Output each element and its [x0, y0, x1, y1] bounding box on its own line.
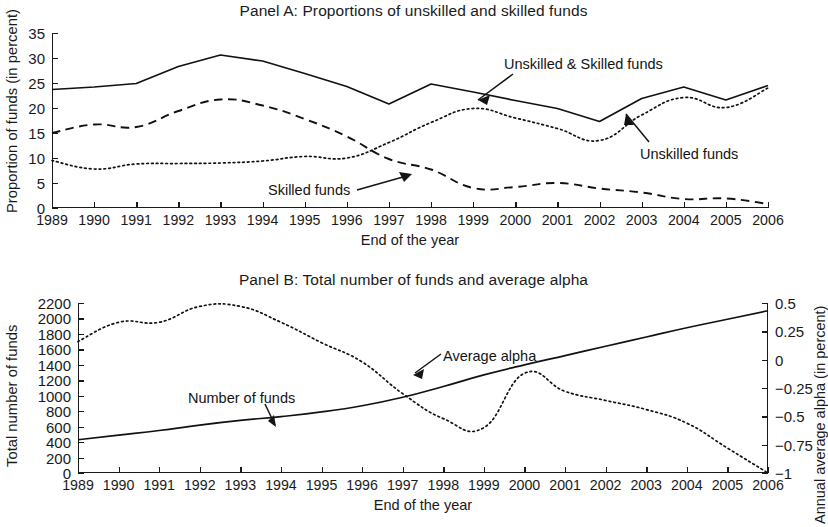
y-tick-label: 1000	[38, 387, 71, 404]
x-tick-label: 1997	[387, 477, 419, 493]
y-tick-label: 0.25	[775, 323, 804, 340]
panel-a-title: Panel A: Proportions of unskilled and sk…	[0, 2, 827, 20]
tick-mark	[762, 473, 768, 474]
tick-mark	[52, 208, 58, 209]
panel-b-x-axis-title: End of the year	[78, 497, 768, 513]
x-tick-label: 1995	[306, 477, 338, 493]
panel-a: Panel A: Proportions of unskilled and sk…	[0, 0, 827, 262]
x-tick-label: 1996	[346, 477, 378, 493]
y-tick-label: 0	[775, 351, 783, 368]
y-tick-label: −0.5	[775, 408, 805, 425]
x-tick-label: 1990	[78, 212, 110, 228]
annotation-unskilled-funds: Unskilled funds	[640, 146, 738, 162]
panel-b-y-axis-title-left: Total number of funds	[4, 325, 20, 467]
y-tick-label: 30	[28, 50, 45, 67]
panel-b-series-layer	[78, 303, 768, 473]
x-tick-label: 2001	[542, 212, 574, 228]
x-tick-label: 1997	[373, 212, 405, 228]
y-tick-label: 0.5	[775, 295, 796, 312]
x-tick-label: 2005	[710, 212, 742, 228]
y-tick-label: 1200	[38, 372, 71, 389]
x-tick-label: 1994	[247, 212, 279, 228]
panel-b-title: Panel B: Total number of funds and avera…	[0, 271, 827, 289]
y-tick-label: 1800	[38, 325, 71, 342]
annotation-number-of-funds: Number of funds	[188, 390, 295, 406]
y-tick-label: −0.75	[775, 436, 813, 453]
x-tick-label: 2004	[668, 212, 700, 228]
tick-mark	[768, 202, 769, 208]
y-tick-label: −0.25	[775, 380, 813, 397]
y-tick-label: 10	[28, 150, 45, 167]
annotation-average-alpha: Average alpha	[443, 348, 536, 364]
tick-mark	[768, 467, 769, 473]
x-tick-label: 1992	[163, 212, 195, 228]
x-tick-label: 1990	[103, 477, 135, 493]
panel-b-y-axis-title-right: Annual average alpha (in percent)	[812, 306, 828, 524]
y-tick-label: 1600	[38, 341, 71, 358]
y-tick-label: 2000	[38, 310, 71, 327]
x-tick-label: 2002	[590, 477, 622, 493]
panel-a-x-axis-title: End of the year	[52, 232, 768, 248]
x-tick-label: 1991	[120, 212, 152, 228]
y-tick-label: 800	[46, 403, 71, 420]
x-tick-label: 2006	[752, 477, 784, 493]
x-tick-label: 1994	[265, 477, 297, 493]
y-tick-label: 20	[28, 100, 45, 117]
x-tick-label: 2000	[500, 212, 532, 228]
x-tick-label: 1995	[289, 212, 321, 228]
tick-mark	[78, 473, 84, 474]
x-tick-label: 1998	[428, 477, 460, 493]
annotation-combined-funds: Unskilled & Skilled funds	[504, 56, 663, 72]
x-tick-label: 2006	[752, 212, 784, 228]
annotation-skilled-funds: Skilled funds	[268, 182, 350, 198]
x-tick-label: 1991	[143, 477, 175, 493]
x-tick-label: 1992	[184, 477, 216, 493]
x-tick-label: 2000	[509, 477, 541, 493]
x-tick-label: 1993	[225, 477, 257, 493]
x-tick-label: 1998	[415, 212, 447, 228]
y-tick-label: 1400	[38, 356, 71, 373]
series-number-of-funds	[78, 311, 768, 440]
x-tick-label: 2001	[549, 477, 581, 493]
x-tick-label: 1989	[36, 212, 68, 228]
x-tick-label: 2002	[584, 212, 616, 228]
x-tick-label: 1996	[331, 212, 363, 228]
x-tick-label: 1989	[62, 477, 94, 493]
y-tick-label: 15	[28, 125, 45, 142]
y-tick-label: 2200	[38, 295, 71, 312]
x-tick-label: 1999	[457, 212, 489, 228]
panel-a-y-axis-title: Proportion of funds (in percent)	[4, 9, 20, 213]
y-tick-label: 400	[46, 434, 71, 451]
x-tick-label: 2003	[626, 212, 658, 228]
series-average-alpha	[78, 304, 768, 473]
panel-b-plot-area: 0200400600800100012001400160018002000220…	[78, 303, 768, 473]
x-tick-label: 2003	[630, 477, 662, 493]
x-tick-label: 2004	[671, 477, 703, 493]
y-tick-label: 600	[46, 418, 71, 435]
y-tick-label: 5	[37, 175, 45, 192]
y-tick-label: 25	[28, 75, 45, 92]
x-tick-label: 2005	[712, 477, 744, 493]
x-tick-label: 1999	[468, 477, 500, 493]
y-tick-label: 200	[46, 449, 71, 466]
y-tick-label: 35	[28, 25, 45, 42]
x-tick-label: 1993	[205, 212, 237, 228]
